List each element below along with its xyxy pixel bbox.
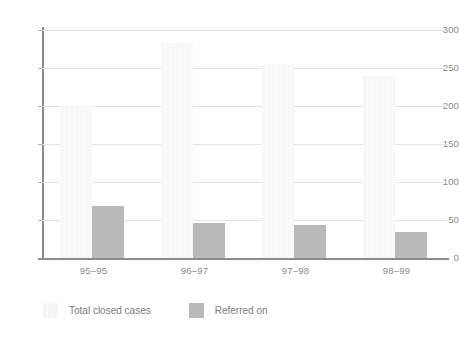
- gridline-300: [43, 30, 447, 31]
- x-tick-label-3: 98–99: [346, 266, 447, 276]
- bar-95-95-series-1[interactable]: [60, 106, 92, 258]
- bar-98-99-series-2[interactable]: [395, 232, 427, 258]
- legend-item-referred-on[interactable]: Referred on: [189, 303, 268, 318]
- bar-98-99-series-1[interactable]: [363, 76, 395, 258]
- legend-label-total-closed-cases: Total closed cases: [69, 306, 151, 316]
- legend-item-total-closed-cases[interactable]: Total closed cases: [43, 303, 151, 318]
- x-tick-label-0: 95–95: [43, 266, 144, 276]
- legend-swatch-icon-referred-on: [189, 303, 204, 318]
- gridline-250: [43, 68, 447, 69]
- x-axis-line: [40, 258, 449, 260]
- bar-96-97-series-1[interactable]: [161, 43, 193, 258]
- chart-legend: Total closed cases Referred on: [43, 303, 306, 318]
- bar-96-97-series-2[interactable]: [193, 223, 225, 258]
- x-tick-label-1: 96–97: [144, 266, 245, 276]
- plot-area: [43, 30, 447, 258]
- bar-chart: 050100150200250300 95–9596–9797–9898–99 …: [0, 0, 459, 342]
- bar-97-98-series-2[interactable]: [294, 225, 326, 258]
- legend-swatch-icon-total-closed-cases: [43, 303, 58, 318]
- legend-label-referred-on: Referred on: [215, 306, 268, 316]
- bar-97-98-series-1[interactable]: [262, 64, 294, 258]
- x-tick-label-2: 97–98: [245, 266, 346, 276]
- bar-95-95-series-2[interactable]: [92, 206, 124, 258]
- axis-origin-tick: [38, 258, 44, 260]
